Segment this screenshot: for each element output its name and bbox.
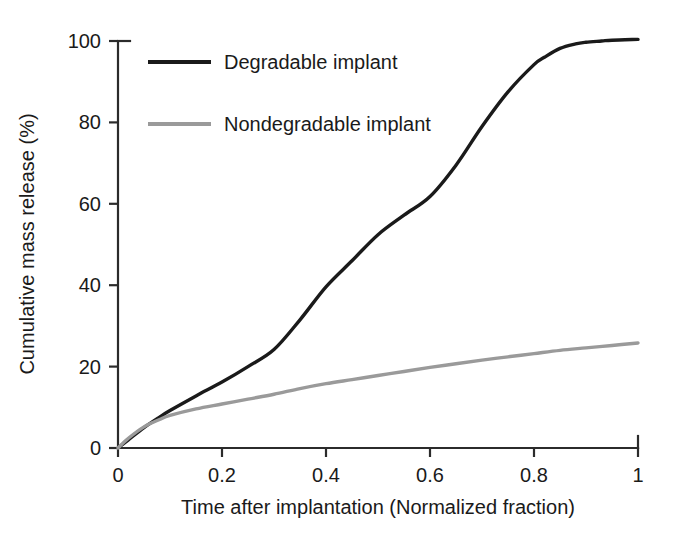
y-tick-label: 20 bbox=[79, 356, 101, 378]
x-tick-label: 0.6 bbox=[416, 464, 444, 486]
y-tick-label: 40 bbox=[79, 274, 101, 296]
chart-canvas: 020406080100 00.20.40.60.81 Degradable i… bbox=[0, 0, 679, 539]
y-tick-label: 80 bbox=[79, 111, 101, 133]
y-tick-label: 100 bbox=[68, 30, 101, 52]
x-tick-label: 1 bbox=[632, 464, 643, 486]
y-axis-title: Cumulative mass release (%) bbox=[16, 113, 38, 374]
chart-figure: 020406080100 00.20.40.60.81 Degradable i… bbox=[0, 0, 679, 539]
series-group bbox=[118, 39, 638, 448]
axis-group bbox=[109, 41, 638, 457]
legend-label-degradable: Degradable implant bbox=[224, 51, 398, 73]
x-tick-label: 0.2 bbox=[208, 464, 236, 486]
x-tick-label: 0 bbox=[112, 464, 123, 486]
legend-label-nondegradable: Nondegradable implant bbox=[224, 113, 431, 135]
series-degradable-implant bbox=[118, 39, 638, 448]
y-tick-marks bbox=[109, 41, 118, 448]
y-tick-label: 0 bbox=[90, 437, 101, 459]
x-tick-marks bbox=[118, 448, 638, 457]
x-tick-labels: 00.20.40.60.81 bbox=[112, 464, 643, 486]
y-tick-labels: 020406080100 bbox=[68, 30, 101, 459]
legend: Degradable implant Nondegradable implant bbox=[148, 51, 431, 135]
x-axis-title: Time after implantation (Normalized frac… bbox=[181, 496, 575, 518]
y-tick-label: 60 bbox=[79, 193, 101, 215]
x-tick-label: 0.8 bbox=[520, 464, 548, 486]
x-tick-label: 0.4 bbox=[312, 464, 340, 486]
